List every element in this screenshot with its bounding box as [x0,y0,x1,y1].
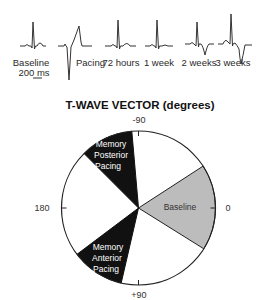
strip-label-3-weeks: 3 weeks [216,57,251,68]
axis-label-top: -90 [132,115,145,125]
strip-label-2-weeks: 2 weeks [182,57,217,68]
axis-label-left: 180 [34,203,49,213]
ecg-labels: Baseline Pacing 72 hours 1 week 2 weeks … [13,57,251,78]
sector-label-baseline: Baseline [164,202,197,212]
axis-label-right: 0 [225,203,230,213]
ecg-trace-baseline [20,22,46,49]
strip-label-pacing: Pacing [76,57,105,68]
posterior-label-line-3: Pacing [95,161,121,171]
ecg-trace-72-hours [105,20,136,49]
strip-label-1-week: 1 week [144,57,174,68]
posterior-label-line-2: Posterior [94,150,128,160]
ecg-trace-2-weeks [185,22,214,55]
scale-bar-label: 200 ms [18,67,49,78]
ecg-panel [20,14,252,80]
figure: Baseline Pacing 72 hours 1 week 2 weeks … [0,0,258,300]
ecg-trace-1-week [145,20,173,49]
anterior-label-line-2: Anterior [92,253,122,263]
ecg-trace-pacing [58,26,92,80]
anterior-label-line-3: Pacing [93,264,119,274]
chart-title: T-WAVE VECTOR (degrees) [65,99,214,111]
posterior-label-line-1: Memory [96,139,127,149]
strip-label-72-hours: 72 hours [103,57,140,68]
anterior-label-line-1: Memory [93,242,124,252]
axis-label-bottom: +90 [131,290,146,300]
